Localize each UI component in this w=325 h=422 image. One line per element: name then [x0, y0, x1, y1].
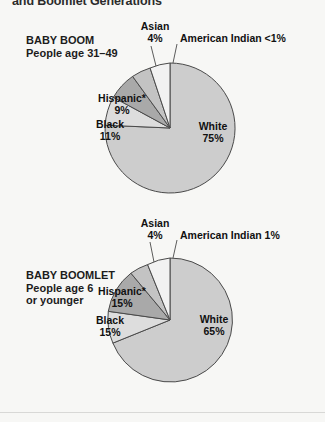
panel1-white-label: White [191, 120, 235, 132]
panel1-black-label-block: Black 11% [88, 118, 132, 142]
panel2-hispanic-label-block: Hispanic* 15% [96, 285, 148, 309]
panel2-black-pct: 15% [88, 326, 132, 338]
panel2-black-label: Black [88, 314, 132, 326]
leader-line-amindian-2 [173, 240, 177, 258]
panel2-white-label-block: White 65% [192, 313, 236, 337]
panel2-white-pct: 65% [192, 325, 236, 337]
panel2-hispanic-label: Hispanic* [96, 285, 148, 297]
pie-chart-baby-boomlet [0, 207, 325, 422]
leader-line-amindian-1 [173, 44, 177, 63]
pie-panel-baby-boom: BABY BOOM People age 31–49 Asian 4% Amer… [0, 0, 325, 215]
panel1-hispanic-label: Hispanic* [96, 92, 148, 104]
panel2-white-label: White [192, 313, 236, 325]
panel1-hispanic-label-block: Hispanic* 9% [96, 92, 148, 116]
panel1-white-pct: 75% [191, 132, 235, 144]
panel1-black-label: Black [88, 118, 132, 130]
panel2-hispanic-pct: 15% [96, 297, 148, 309]
panel1-white-label-block: White 75% [191, 120, 235, 144]
leader-line-asian-1 [151, 46, 156, 66]
pie-chart-baby-boom [0, 0, 325, 215]
leader-line-asian-2 [150, 242, 154, 262]
panel1-black-pct: 11% [88, 130, 132, 142]
panel2-black-label-block: Black 15% [88, 314, 132, 338]
chart-page: and Boomlet Generations BABY BOOM People… [0, 0, 325, 422]
footer-divider [0, 412, 325, 413]
pie-panel-baby-boomlet: BABY BOOMLET People age 6 or younger Asi… [0, 207, 325, 422]
panel1-hispanic-pct: 9% [96, 104, 148, 116]
